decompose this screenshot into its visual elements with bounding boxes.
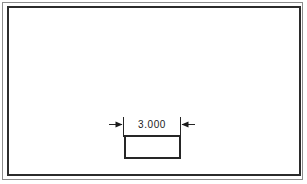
drawing-canvas: 3.000 <box>0 0 307 184</box>
part-rectangle <box>124 135 181 159</box>
